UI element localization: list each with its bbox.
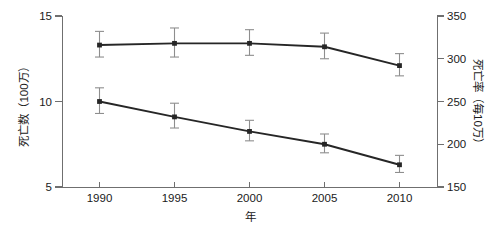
plot-area bbox=[0, 0, 500, 236]
data-point-marker bbox=[397, 63, 402, 68]
data-point-marker bbox=[322, 44, 327, 49]
data-series-2 bbox=[95, 88, 404, 173]
data-point-marker bbox=[247, 41, 252, 46]
data-point-marker bbox=[97, 43, 102, 48]
data-point-marker bbox=[322, 142, 327, 147]
data-point-marker bbox=[172, 114, 177, 119]
data-series-1 bbox=[95, 28, 404, 76]
data-point-marker bbox=[97, 99, 102, 104]
chart-figure: 51015 150200250300350 199019952000200520… bbox=[0, 0, 500, 236]
data-point-marker bbox=[172, 41, 177, 46]
data-point-marker bbox=[397, 162, 402, 167]
data-point-marker bbox=[247, 129, 252, 134]
